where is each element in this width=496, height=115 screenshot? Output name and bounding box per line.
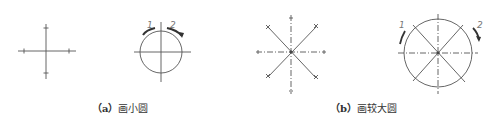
diagram-canvas: 1 2 1 2 bbox=[0, 0, 496, 115]
caption-a-text: 画小圆 bbox=[118, 103, 148, 114]
radial-lines-star bbox=[256, 15, 326, 94]
caption-b-prefix: （b） bbox=[330, 103, 357, 114]
centerline-cross bbox=[18, 24, 76, 79]
caption-b-text: 画较大圆 bbox=[357, 103, 397, 114]
arc-label-2-small: 2 bbox=[170, 20, 176, 30]
arc-label-1-large: 1 bbox=[399, 20, 405, 30]
caption-a-prefix: （a） bbox=[92, 103, 118, 114]
arc-label-1-small: 1 bbox=[147, 20, 153, 30]
small-circle-figure bbox=[134, 22, 191, 82]
caption-b: （b）画较大圆 bbox=[330, 100, 397, 115]
large-circle-figure bbox=[398, 14, 481, 94]
caption-a: （a）画小圆 bbox=[92, 100, 148, 115]
arc-label-2-large: 2 bbox=[477, 20, 483, 30]
